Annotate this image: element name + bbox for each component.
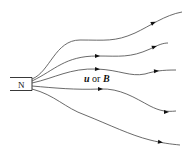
field-label: u or B [84, 73, 110, 84]
arrowhead-icon [154, 69, 159, 73]
north-pole-magnet: N [10, 78, 32, 91]
field-line [32, 86, 176, 111]
field-lines-diagram: N u or B [0, 0, 188, 152]
arrowhead-icon [158, 140, 164, 145]
field-line [32, 12, 182, 79]
arrowhead-icon [151, 44, 157, 49]
arrowhead-icon [95, 67, 100, 71]
field-line [32, 89, 180, 145]
magnet-label: N [18, 80, 25, 90]
arrowhead-icon [164, 110, 169, 114]
or-text: or [90, 73, 103, 84]
arrowhead-icon [95, 54, 100, 58]
arrowhead-icon [98, 87, 103, 91]
magnetic-field-symbol: B [102, 73, 110, 84]
